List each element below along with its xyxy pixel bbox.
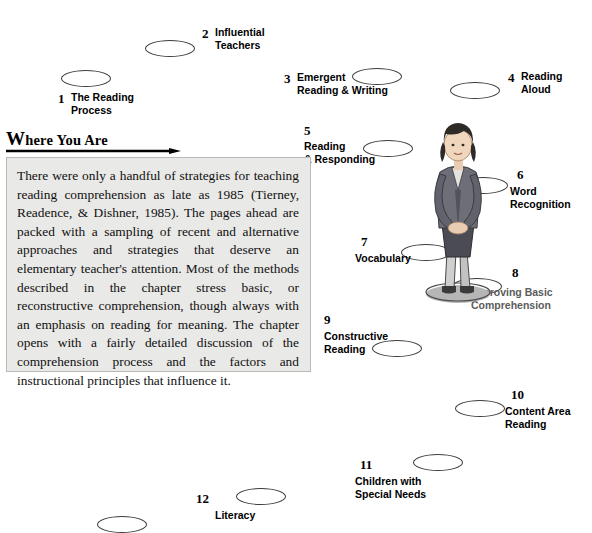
step-ellipse-2: [145, 40, 195, 57]
step-number-10: 10: [511, 388, 524, 401]
step-number-7: 7: [361, 235, 368, 248]
section-heading: Where You Are: [6, 128, 108, 150]
step-number-12: 12: [196, 492, 209, 505]
step-number-5: 5: [304, 124, 311, 137]
step-number-1: 1: [58, 92, 65, 105]
step-label-1: The Reading Process: [71, 91, 134, 116]
step-number-4: 4: [508, 71, 515, 84]
step-number-2: 2: [202, 27, 209, 40]
step-ellipse-10: [455, 400, 505, 417]
step-label-6: Word Recognition: [510, 185, 571, 210]
woman-illustration: [412, 112, 504, 307]
where-you-are-textbox: There were only a handful of strategies …: [6, 157, 311, 372]
step-ellipse-11: [413, 454, 463, 471]
step-label-11: Children with Special Needs: [355, 475, 426, 500]
section-heading-initial: W: [6, 128, 25, 149]
step-label-5: Reading & Responding: [304, 140, 375, 165]
step-label-3: Emergent Reading & Writing: [297, 71, 388, 96]
heading-arrow-rule: [6, 148, 181, 154]
step-ellipse-4: [450, 82, 500, 99]
step-number-8: 8: [512, 266, 519, 279]
where-you-are-paragraph: There were only a handful of strategies …: [17, 167, 299, 390]
step-ellipse-12: [236, 488, 286, 505]
section-heading-text: here You Are: [25, 132, 108, 148]
step-ellipse-1: [61, 70, 111, 87]
step-ellipse-13-partial: [97, 516, 147, 533]
step-label-4: Reading Aloud: [521, 70, 562, 95]
step-label-12: Literacy: [215, 509, 255, 522]
step-number-11: 11: [360, 458, 372, 471]
step-label-10: Content Area Reading: [505, 405, 571, 430]
step-label-7: Vocabulary: [355, 252, 411, 265]
step-label-9: Constructive Reading: [324, 330, 388, 355]
step-number-3: 3: [284, 72, 291, 85]
step-number-6: 6: [517, 168, 524, 181]
step-number-9: 9: [324, 313, 331, 326]
step-label-2: Influential Teachers: [215, 26, 265, 51]
